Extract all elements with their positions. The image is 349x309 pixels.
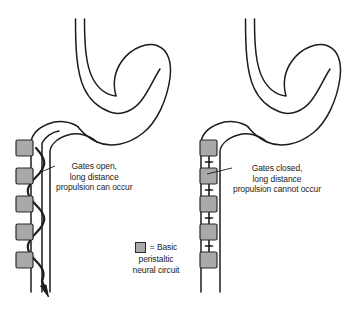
neural-node — [200, 140, 217, 156]
label-gates-open: Gates open, long distance propulsion can… — [56, 161, 132, 193]
neural-node — [200, 224, 217, 240]
label-gates-open-line2: long distance — [70, 172, 119, 182]
label-gates-closed-line1: Gates closed, — [252, 163, 303, 173]
legend-line3: neural circuit — [104, 265, 208, 276]
label-gates-open-line1: Gates open, — [72, 161, 117, 171]
label-gates-open-line3: propulsion can occur — [56, 182, 132, 192]
label-gates-closed-line2: long distance — [253, 174, 302, 184]
neural-node — [16, 252, 33, 268]
neural-node — [16, 224, 33, 240]
label-gates-closed: Gates closed, long distance propulsion c… — [233, 163, 321, 195]
panel-right-gates-closed — [200, 19, 341, 292]
neural-node — [16, 168, 33, 184]
legend-equals-label: = Basic — [150, 242, 177, 253]
legend-swatch-icon — [135, 242, 146, 253]
legend-line2: peristaltic — [104, 254, 208, 265]
duodenum-inner-wall-left — [50, 134, 97, 292]
duodenum-inner-wall-right — [220, 134, 267, 292]
neural-node — [200, 196, 217, 212]
neural-node — [16, 196, 33, 212]
stomach-body-right — [248, 19, 341, 145]
legend-row: = Basic — [104, 240, 208, 254]
stomach-body-left — [78, 19, 171, 145]
neural-node — [200, 168, 217, 184]
neural-node — [16, 140, 33, 156]
legend: = Basic peristaltic neural circuit — [104, 240, 208, 275]
label-gates-closed-line3: propulsion cannot occur — [233, 184, 321, 194]
